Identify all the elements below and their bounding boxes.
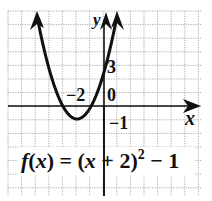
formula-open: ( [28, 148, 35, 173]
right-arrow-icon [111, 11, 124, 30]
formula-x1: x [35, 148, 47, 173]
x-axis-label: x [184, 107, 195, 129]
formula-exponent: 2 [138, 147, 145, 162]
formula-tail: − 1 [145, 148, 180, 173]
function-formula: f(x) = (x + 2)2 − 1 [21, 147, 179, 173]
y-axis-arrow-icon [100, 12, 112, 30]
y-intercept-label: 3 [107, 57, 116, 77]
formula-mid: ) = ( [47, 148, 85, 173]
left-arrow-icon [30, 11, 44, 30]
formula-x2: x [84, 148, 96, 173]
formula-plus: + 2) [96, 148, 138, 173]
vertex-x-label: −2 [66, 85, 85, 105]
neg-one-label: −1 [109, 113, 128, 133]
function-graph: y −2 3 0 −1 x f(x) = (x + 2)2 − 1 [0, 0, 212, 201]
zero-label: 0 [107, 85, 116, 105]
y-axis-label: y [91, 10, 101, 29]
